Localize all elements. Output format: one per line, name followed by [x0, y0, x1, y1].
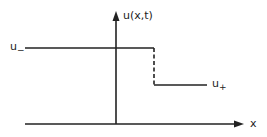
right-state-label: u+: [212, 78, 227, 89]
right-state-symbol: u: [212, 77, 219, 90]
x-axis-arrow-icon: [234, 121, 244, 128]
right-state-subscript: +: [219, 82, 227, 92]
left-state-label: u−: [10, 41, 25, 52]
left-state-symbol: u: [10, 40, 17, 53]
y-axis-arrow-icon: [113, 11, 120, 21]
left-state-subscript: −: [17, 45, 25, 55]
x-axis-label: x: [250, 118, 257, 129]
y-axis-label: u(x,t): [123, 10, 153, 21]
